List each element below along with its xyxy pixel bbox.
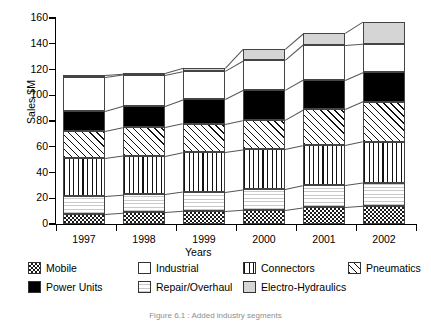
x-tick-0 bbox=[56, 225, 57, 231]
segment-power-units-2000[interactable] bbox=[243, 90, 285, 120]
y-tick-label-160: 160 bbox=[4, 12, 48, 22]
segment-power-units-1999[interactable] bbox=[183, 99, 225, 123]
segment-electro-hydraulics-1997[interactable] bbox=[63, 75, 105, 78]
y-tick-label-0: 0 bbox=[4, 218, 48, 228]
legend-swatch-icon bbox=[28, 262, 41, 274]
y-tick-label-20: 20 bbox=[4, 192, 48, 202]
stacked-column-2001[interactable] bbox=[303, 0, 345, 324]
segment-mobile-2001[interactable] bbox=[303, 207, 345, 224]
y-tick-160 bbox=[49, 17, 56, 18]
segment-electro-hydraulics-1998[interactable] bbox=[123, 73, 165, 75]
segment-industrial-1999[interactable] bbox=[183, 71, 225, 99]
stacked-column-1999[interactable] bbox=[183, 0, 225, 324]
segment-industrial-1997[interactable] bbox=[63, 77, 105, 110]
y-tick-label-40: 40 bbox=[4, 167, 48, 177]
segment-electro-hydraulics-1999[interactable] bbox=[183, 68, 225, 71]
segment-power-units-2002[interactable] bbox=[363, 72, 405, 102]
segment-pneumatics-2000[interactable] bbox=[243, 120, 285, 150]
segment-pneumatics-1999[interactable] bbox=[183, 124, 225, 152]
y-tick-60 bbox=[49, 146, 56, 147]
y-tick-label-120: 120 bbox=[4, 64, 48, 74]
segment-repair-overhaul-1999[interactable] bbox=[183, 192, 225, 211]
segment-electro-hydraulics-2002[interactable] bbox=[363, 22, 405, 44]
segment-pneumatics-2001[interactable] bbox=[303, 109, 345, 145]
y-tick-20 bbox=[49, 198, 56, 199]
segment-repair-overhaul-2000[interactable] bbox=[243, 189, 285, 210]
segment-industrial-1998[interactable] bbox=[123, 75, 165, 106]
y-tick-label-60: 60 bbox=[4, 141, 48, 151]
segment-repair-overhaul-1997[interactable] bbox=[63, 196, 105, 214]
legend-swatch-icon bbox=[28, 281, 41, 293]
segment-industrial-2001[interactable] bbox=[303, 45, 345, 80]
x-tick-1 bbox=[116, 225, 117, 231]
segment-pneumatics-1997[interactable] bbox=[63, 131, 105, 158]
stacked-column-2000[interactable] bbox=[243, 0, 285, 324]
stacked-column-1997[interactable] bbox=[63, 0, 105, 324]
segment-power-units-2001[interactable] bbox=[303, 80, 345, 110]
y-tick-0 bbox=[49, 223, 56, 224]
y-tick-40 bbox=[49, 172, 56, 173]
y-tick-label-80: 80 bbox=[4, 115, 48, 125]
segment-power-units-1998[interactable] bbox=[123, 106, 165, 128]
segment-pneumatics-2002[interactable] bbox=[363, 102, 405, 142]
y-tick-120 bbox=[49, 69, 56, 70]
segment-connectors-2000[interactable] bbox=[243, 149, 285, 189]
segment-mobile-1997[interactable] bbox=[63, 214, 105, 224]
segment-pneumatics-1998[interactable] bbox=[123, 127, 165, 155]
segment-mobile-1998[interactable] bbox=[123, 212, 165, 224]
stacked-column-1998[interactable] bbox=[123, 0, 165, 324]
legend-swatch-icon bbox=[348, 262, 361, 274]
segment-connectors-1998[interactable] bbox=[123, 156, 165, 195]
x-tick-2 bbox=[176, 225, 177, 231]
segment-power-units-1997[interactable] bbox=[63, 111, 105, 132]
segment-repair-overhaul-1998[interactable] bbox=[123, 194, 165, 212]
x-tick-3 bbox=[236, 225, 237, 231]
segment-mobile-2000[interactable] bbox=[243, 210, 285, 224]
segment-mobile-2002[interactable] bbox=[363, 206, 405, 224]
segment-connectors-2001[interactable] bbox=[303, 145, 345, 185]
segment-electro-hydraulics-2001[interactable] bbox=[303, 33, 345, 45]
y-tick-80 bbox=[49, 120, 56, 121]
segment-mobile-1999[interactable] bbox=[183, 211, 225, 224]
segment-electro-hydraulics-2000[interactable] bbox=[243, 49, 285, 61]
stacked-column-2002[interactable] bbox=[363, 0, 405, 324]
y-tick-100 bbox=[49, 95, 56, 96]
x-tick-5 bbox=[356, 225, 357, 231]
y-axis-title: Sales $M bbox=[25, 67, 37, 137]
segment-industrial-2002[interactable] bbox=[363, 44, 405, 72]
y-tick-label-100: 100 bbox=[4, 89, 48, 99]
segment-connectors-1997[interactable] bbox=[63, 158, 105, 195]
segment-connectors-1999[interactable] bbox=[183, 152, 225, 192]
y-tick-140 bbox=[49, 43, 56, 44]
segment-connectors-2002[interactable] bbox=[363, 142, 405, 183]
x-tick-4 bbox=[296, 225, 297, 231]
segment-industrial-2000[interactable] bbox=[243, 60, 285, 90]
chart-figure: Sales $M Years 020406080100120140160 199… bbox=[0, 0, 431, 324]
y-tick-label-140: 140 bbox=[4, 38, 48, 48]
segment-repair-overhaul-2001[interactable] bbox=[303, 185, 345, 207]
x-tick-6 bbox=[416, 225, 417, 231]
segment-repair-overhaul-2002[interactable] bbox=[363, 183, 405, 206]
